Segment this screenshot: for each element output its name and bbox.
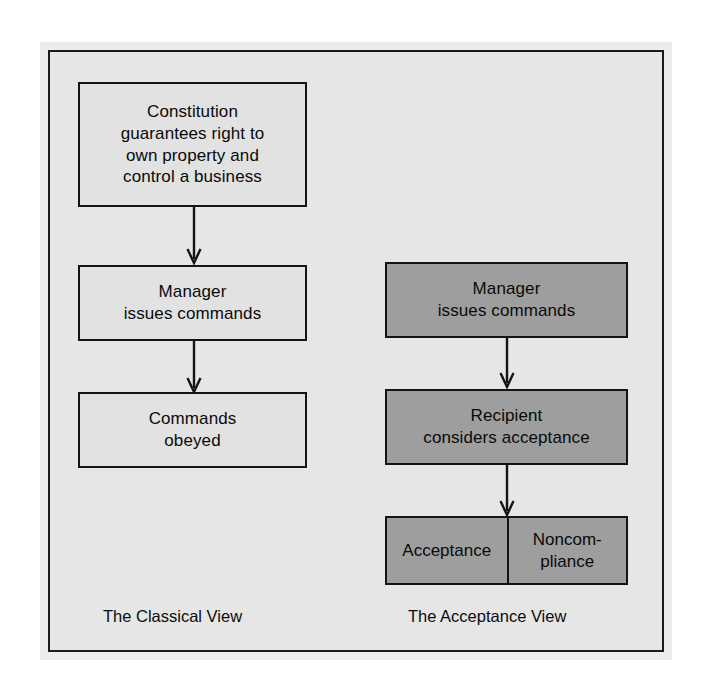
arrow-manager-to-commands-obeyed	[186, 341, 202, 395]
classical-box-constitution: Constitution guarantees right to own pro…	[78, 82, 307, 207]
arrow-manager-to-recipient	[499, 338, 515, 390]
acceptance-box-manager-issues-commands: Manager issues commands	[385, 262, 628, 338]
classical-box-commands-obeyed: Commands obeyed	[78, 392, 307, 468]
acceptance-box-recipient-considers: Recipient considers acceptance	[385, 389, 628, 465]
caption-acceptance-view: The Acceptance View	[408, 607, 566, 626]
acceptance-outcome-split-box: Acceptance Noncom- pliance	[385, 516, 628, 585]
outcome-cell-noncompliance: Noncom- pliance	[507, 518, 627, 583]
caption-classical-view: The Classical View	[103, 607, 242, 626]
diagram-frame: Constitution guarantees right to own pro…	[48, 50, 664, 652]
arrow-recipient-to-outcome	[499, 465, 515, 518]
classical-box-manager-issues-commands: Manager issues commands	[78, 265, 307, 341]
outcome-cell-acceptance: Acceptance	[387, 518, 507, 583]
arrow-constitution-to-manager	[186, 207, 202, 266]
